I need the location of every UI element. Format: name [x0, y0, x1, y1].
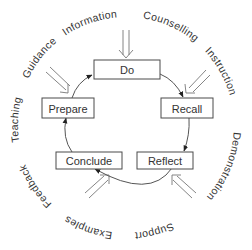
stage-prepare-label: Prepare: [48, 103, 87, 115]
stage-do: Do: [94, 60, 160, 79]
ring-label-support: Support: [134, 221, 176, 243]
ring-label-teaching: Teaching: [8, 96, 23, 144]
arrow-do-to-recall: [160, 74, 183, 97]
input-arrow-recall: [185, 70, 210, 93]
stage-conclude-label: Conclude: [66, 155, 112, 167]
ring-label-examples: Examples: [62, 214, 113, 242]
ring-label-counselling: Counselling: [142, 8, 201, 43]
ring-label-guidance: Guidance: [19, 34, 58, 80]
learning-cycle-diagram: Guidance Information Counselling Instruc…: [0, 0, 252, 250]
input-arrow-conclude: [85, 175, 109, 198]
ring-label-information: Information: [60, 7, 118, 37]
ring-label-instruction: Instruction: [203, 44, 239, 96]
stage-reflect-label: Reflect: [148, 155, 182, 167]
stage-do-label: Do: [120, 64, 134, 76]
stage-conclude: Conclude: [56, 152, 122, 169]
input-arrow-do: [119, 30, 133, 58]
input-arrow-reflect: [172, 175, 196, 198]
stage-reflect: Reflect: [137, 152, 193, 169]
input-arrow-prepare: [46, 67, 70, 93]
outer-ring-labels: Guidance Information Counselling Instruc…: [8, 7, 244, 242]
arrow-conclude-to-prepare: [65, 118, 72, 152]
stage-prepare: Prepare: [42, 98, 94, 118]
arrow-prepare-to-do: [72, 75, 92, 98]
ring-label-demonstration: Demonstration: [205, 132, 244, 204]
stage-recall: Recall: [161, 98, 213, 118]
stage-recall-label: Recall: [172, 103, 203, 115]
arrow-recall-to-reflect: [184, 118, 189, 151]
ring-label-feedback: Feedback: [16, 163, 54, 211]
